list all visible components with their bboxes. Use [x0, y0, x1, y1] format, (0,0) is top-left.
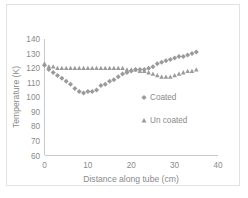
data-point-triangle [146, 70, 151, 74]
data-point-diamond [189, 51, 194, 56]
y-tick-label: 80 [31, 122, 41, 131]
data-point-triangle [155, 73, 160, 77]
x-tick-label: 30 [170, 161, 180, 170]
data-point-triangle [94, 66, 99, 70]
x-tick-label: 0 [42, 161, 47, 170]
data-point-diamond [116, 74, 121, 79]
series-un-coated [42, 61, 198, 78]
data-point-triangle [116, 66, 121, 70]
data-point-triangle [77, 66, 82, 70]
data-point-diamond [51, 70, 56, 75]
data-point-diamond [94, 87, 99, 92]
data-point-triangle [81, 66, 86, 70]
series-coated [42, 50, 199, 96]
legend-label: Un coated [150, 116, 188, 125]
data-point-triangle [90, 66, 95, 70]
data-point-triangle [99, 66, 104, 70]
data-point-triangle [181, 70, 186, 74]
data-point-triangle [51, 64, 56, 68]
data-point-diamond [163, 58, 168, 63]
data-point-triangle [120, 66, 125, 70]
y-axis-title: Temperature (K) [11, 66, 21, 128]
y-tick-label: 120 [26, 64, 40, 73]
data-point-triangle [168, 74, 173, 78]
data-point-diamond [59, 76, 64, 81]
chart-figure: 60708090100110120130140 010203040 Temper… [0, 0, 248, 198]
data-point-diamond [159, 60, 164, 65]
data-point-diamond [120, 71, 125, 76]
data-point-diamond [172, 55, 177, 60]
legend-marker-triangle [142, 118, 147, 123]
legend-marker-diamond [141, 95, 146, 100]
data-point-triangle [64, 66, 69, 70]
y-tick-label: 130 [26, 50, 40, 59]
data-point-triangle [86, 66, 91, 70]
data-point-diamond [150, 64, 155, 69]
data-point-diamond [142, 67, 147, 72]
data-point-diamond [90, 89, 95, 94]
data-point-triangle [73, 66, 78, 70]
data-point-diamond [155, 61, 160, 66]
data-point-diamond [107, 79, 112, 84]
data-point-triangle [172, 73, 177, 77]
y-tick-label: 110 [27, 79, 40, 88]
chart-canvas: 60708090100110120130140 010203040 Temper… [0, 0, 248, 198]
data-point-triangle [177, 72, 182, 76]
data-point-diamond [42, 63, 47, 68]
data-point-triangle [159, 74, 164, 78]
data-point-triangle [107, 66, 112, 70]
data-point-diamond [77, 89, 82, 94]
x-axis-tick-labels: 010203040 [42, 161, 223, 170]
x-tick-label: 40 [213, 161, 223, 170]
x-axis-title: Distance along tube (cm) [83, 174, 179, 184]
data-point-diamond [85, 89, 90, 94]
x-tick-label: 10 [83, 161, 93, 170]
data-point-diamond [181, 54, 186, 59]
data-point-diamond [137, 67, 142, 72]
y-tick-label: 140 [26, 35, 40, 44]
data-point-triangle [112, 66, 117, 70]
x-tick-label: 20 [127, 161, 137, 170]
data-point-triangle [68, 66, 73, 70]
data-point-diamond [72, 86, 77, 91]
data-point-triangle [151, 72, 156, 76]
y-tick-label: 60 [31, 152, 41, 161]
data-point-triangle [55, 66, 60, 70]
data-point-diamond [68, 82, 73, 87]
data-point-triangle [60, 66, 65, 70]
data-point-diamond [185, 53, 190, 58]
data-point-triangle [194, 67, 199, 71]
data-point-diamond [103, 82, 108, 87]
data-point-triangle [103, 66, 108, 70]
y-tick-label: 90 [31, 108, 41, 117]
data-point-triangle [190, 69, 195, 73]
data-point-diamond [64, 79, 69, 84]
data-point-diamond [146, 66, 151, 71]
data-point-diamond [129, 69, 134, 74]
data-point-triangle [164, 74, 169, 78]
data-point-diamond [168, 57, 173, 62]
data-point-diamond [81, 90, 86, 95]
data-point-diamond [98, 83, 103, 88]
data-point-diamond [176, 54, 181, 59]
y-axis-tick-labels: 60708090100110120130140 [26, 35, 40, 161]
data-point-diamond [194, 50, 199, 55]
y-tick-label: 100 [26, 93, 40, 102]
data-point-diamond [55, 73, 60, 78]
data-point-triangle [185, 69, 190, 73]
chart-legend: CoatedUn coated [141, 93, 187, 125]
y-tick-label: 70 [31, 137, 41, 146]
data-point-diamond [111, 77, 116, 82]
legend-label: Coated [150, 93, 177, 102]
